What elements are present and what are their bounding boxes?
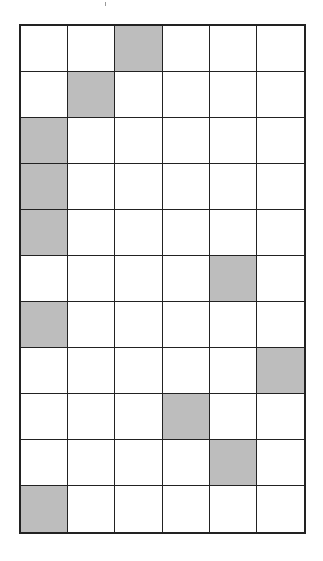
- grid-cell: [257, 486, 304, 532]
- grid-cell: [163, 210, 210, 256]
- grid-cell: [163, 486, 210, 532]
- grid-cell: [210, 164, 257, 210]
- grid-cell: [210, 394, 257, 440]
- grid-cell: [210, 302, 257, 348]
- grid-cell-shaded: [257, 348, 304, 394]
- grid-cell: [210, 348, 257, 394]
- grid-cell: [115, 394, 162, 440]
- grid-cell: [115, 164, 162, 210]
- grid-cell: [68, 210, 115, 256]
- grid-cell: [21, 72, 68, 118]
- grid-cell-shaded: [21, 210, 68, 256]
- grid-cell: [68, 302, 115, 348]
- grid-cell: [257, 440, 304, 486]
- grid-cell: [257, 256, 304, 302]
- grid-cell: [163, 26, 210, 72]
- grid-cell-shaded: [210, 256, 257, 302]
- grid-cell-shaded: [21, 164, 68, 210]
- grid-cell-shaded: [21, 486, 68, 532]
- grid-cell: [21, 348, 68, 394]
- grid-cell: [257, 210, 304, 256]
- grid-cell: [163, 302, 210, 348]
- grid-cell: [68, 440, 115, 486]
- grid-cell: [257, 118, 304, 164]
- grid-cell: [210, 486, 257, 532]
- grid-cell: [68, 118, 115, 164]
- top-tick-mark: [105, 2, 106, 6]
- grid-cell: [115, 256, 162, 302]
- grid-cell: [257, 72, 304, 118]
- grid-cell-shaded: [163, 394, 210, 440]
- grid-cell-shaded: [21, 302, 68, 348]
- grid-cell-shaded: [115, 26, 162, 72]
- grid-cell: [210, 72, 257, 118]
- grid-cell: [21, 256, 68, 302]
- grid-cell: [115, 440, 162, 486]
- grid-cell: [257, 302, 304, 348]
- grid-cell: [163, 348, 210, 394]
- grid-cell: [210, 26, 257, 72]
- grid-cell: [257, 394, 304, 440]
- grid-cell: [163, 72, 210, 118]
- grid-cell: [115, 210, 162, 256]
- grid-cell: [21, 394, 68, 440]
- grid-cell-shaded: [210, 440, 257, 486]
- grid-cell: [115, 302, 162, 348]
- grid-cell: [163, 256, 210, 302]
- grid-cell: [210, 118, 257, 164]
- grid-cell: [115, 118, 162, 164]
- shaded-grid: [19, 24, 306, 534]
- grid-cell: [68, 256, 115, 302]
- grid-cell: [163, 164, 210, 210]
- grid-cell: [210, 210, 257, 256]
- grid-cell: [257, 164, 304, 210]
- grid-cell: [257, 26, 304, 72]
- grid-cell: [68, 26, 115, 72]
- grid-cell: [68, 164, 115, 210]
- grid-cell: [163, 118, 210, 164]
- grid-cell: [163, 440, 210, 486]
- grid-cell: [21, 26, 68, 72]
- grid-cell: [115, 72, 162, 118]
- grid-cell: [115, 486, 162, 532]
- grid-cell: [115, 348, 162, 394]
- grid-cell: [21, 440, 68, 486]
- grid-cell-shaded: [68, 72, 115, 118]
- grid-cell: [68, 394, 115, 440]
- grid-cell: [68, 486, 115, 532]
- grid-cell: [68, 348, 115, 394]
- grid-cell-shaded: [21, 118, 68, 164]
